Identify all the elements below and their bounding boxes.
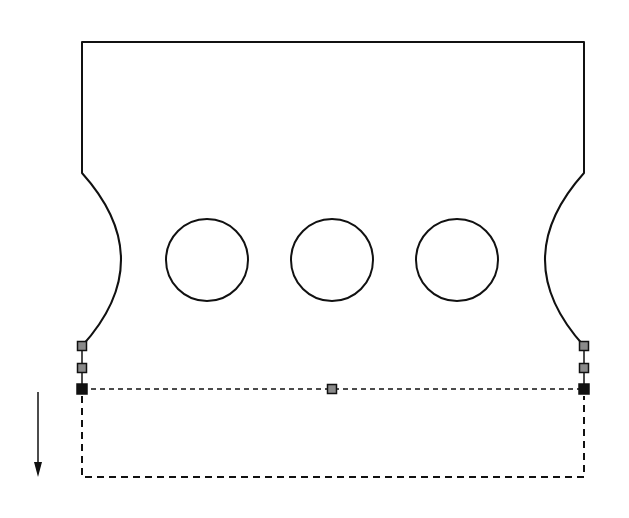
hole-left	[166, 219, 248, 301]
handle-left-top[interactable]	[78, 342, 87, 351]
arrow-down-icon	[34, 392, 42, 477]
handle-right-mid[interactable]	[580, 364, 589, 373]
handle-right-top[interactable]	[580, 342, 589, 351]
handle-center[interactable]	[328, 385, 337, 394]
handle-left-corner[interactable]	[77, 384, 87, 394]
extrude-preview-box	[82, 396, 584, 477]
hole-right	[416, 219, 498, 301]
handle-right-corner[interactable]	[579, 384, 589, 394]
diagram-canvas	[0, 0, 629, 518]
handle-left-mid[interactable]	[78, 364, 87, 373]
hole-center	[291, 219, 373, 301]
